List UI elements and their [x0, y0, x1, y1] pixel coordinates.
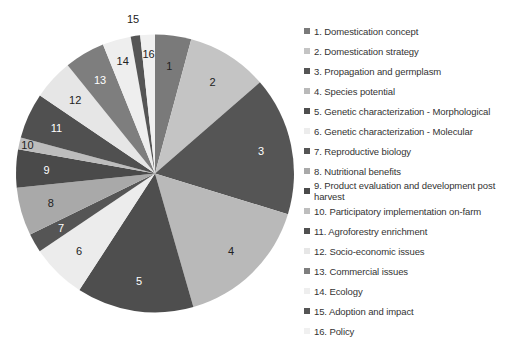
legend-label: 15. Adoption and impact	[314, 306, 414, 317]
legend-swatch	[304, 108, 310, 114]
legend-item: 7. Reproductive biology	[304, 141, 523, 161]
legend-swatch	[304, 328, 310, 334]
legend-item: 3. Propagation and germplasm	[304, 61, 523, 81]
legend-label: 8. Nutritional benefits	[314, 166, 401, 177]
legend-swatch	[304, 188, 310, 194]
legend-label: 5. Genetic characterization - Morphologi…	[314, 106, 490, 117]
legend-label: 11. Agroforestry enrichment	[314, 226, 427, 237]
legend-swatch	[304, 88, 310, 94]
slice-label-7: 7	[58, 222, 64, 234]
legend-swatch	[304, 308, 310, 314]
slice-label-11: 11	[51, 122, 62, 134]
legend-item: 6. Genetic characterization - Molecular	[304, 121, 523, 141]
legend-label: 2. Domestication strategy	[314, 46, 419, 57]
pie-chart: 12345678910111213141516	[0, 0, 300, 349]
legend-item: 8. Nutritional benefits	[304, 161, 523, 181]
slice-label-16: 16	[142, 48, 154, 60]
legend-label: 12. Socio-economic issues	[314, 246, 425, 257]
legend-swatch	[304, 288, 310, 294]
legend-swatch	[304, 228, 310, 234]
slice-label-4: 4	[228, 245, 234, 257]
legend-label: 9. Product evaluation and development po…	[314, 180, 523, 202]
slice-label-1: 1	[166, 60, 172, 72]
legend-swatch	[304, 208, 310, 214]
legend-label: 7. Reproductive biology	[314, 146, 411, 157]
legend-item: 1. Domestication concept	[304, 21, 523, 41]
slice-label-14: 14	[117, 55, 129, 67]
legend: 1. Domestication concept2. Domestication…	[304, 21, 523, 341]
legend-swatch	[304, 28, 310, 34]
legend-item: 4. Species potential	[304, 81, 523, 101]
legend-swatch	[304, 268, 310, 274]
slice-label-2: 2	[210, 76, 216, 88]
legend-item: 15. Adoption and impact	[304, 301, 523, 321]
legend-label: 4. Species potential	[314, 86, 395, 97]
legend-label: 14. Ecology	[314, 286, 363, 297]
slice-label-6: 6	[76, 245, 82, 257]
legend-swatch	[304, 248, 310, 254]
legend-item: 9. Product evaluation and development po…	[304, 181, 523, 201]
legend-item: 13. Commercial issues	[304, 261, 523, 281]
legend-label: 10. Participatory implementation on-farm	[314, 206, 481, 217]
legend-swatch	[304, 168, 310, 174]
slice-label-3: 3	[258, 145, 264, 157]
slice-label-9: 9	[44, 164, 50, 176]
legend-label: 16. Policy	[314, 326, 354, 337]
legend-item: 5. Genetic characterization - Morphologi…	[304, 101, 523, 121]
legend-item: 10. Participatory implementation on-farm	[304, 201, 523, 221]
legend-label: 1. Domestication concept	[314, 26, 418, 37]
slice-label-15: 15	[127, 13, 139, 25]
legend-label: 3. Propagation and germplasm	[314, 66, 441, 77]
legend-swatch	[304, 48, 310, 54]
slice-label-13: 13	[94, 74, 106, 86]
legend-swatch	[304, 68, 310, 74]
legend-item: 12. Socio-economic issues	[304, 241, 523, 261]
legend-swatch	[304, 148, 310, 154]
legend-label: 6. Genetic characterization - Molecular	[314, 126, 473, 137]
legend-item: 2. Domestication strategy	[304, 41, 523, 61]
slice-label-5: 5	[136, 275, 142, 287]
slice-label-8: 8	[48, 197, 54, 209]
slice-label-12: 12	[69, 94, 81, 106]
legend-item: 14. Ecology	[304, 281, 523, 301]
legend-swatch	[304, 128, 310, 134]
legend-item: 16. Policy	[304, 321, 523, 341]
legend-label: 13. Commercial issues	[314, 266, 408, 277]
slice-label-10: 10	[21, 139, 33, 151]
legend-item: 11. Agroforestry enrichment	[304, 221, 523, 241]
